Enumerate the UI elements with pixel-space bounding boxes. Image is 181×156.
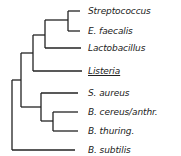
- leaf-label-lactobacillus: Lactobacillus: [88, 43, 145, 53]
- leaf-label-streptococcus: Streptococcus: [88, 6, 151, 16]
- leaf-label-listeria: Listeria: [88, 66, 120, 76]
- leaf-label-e-faecalis: E. faecalis: [88, 26, 133, 36]
- leaf-label-b-thuring: B. thuring.: [88, 126, 134, 136]
- leaf-label-b-subtilis: B. subtilis: [88, 145, 131, 155]
- leaf-label-b-cereus-anthr: B. cereus/anthr.: [88, 107, 158, 117]
- leaf-label-s-aureus: S. aureus: [88, 88, 129, 98]
